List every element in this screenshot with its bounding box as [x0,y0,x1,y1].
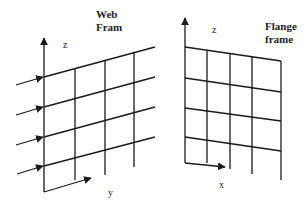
flange-grid-row-4 [185,137,281,151]
flange-grid-row-1 [185,47,281,61]
web-frame-title-line-2: Fram [96,21,122,33]
web-z-label: z [63,39,68,50]
flange-z-label: z [212,24,217,35]
web-grid-row-1 [44,47,155,77]
frames-diagram: Web Fram z y Flange frame z x [0,0,308,209]
web-load-arrow-4 [17,166,43,174]
web-load-arrow-2 [16,107,43,115]
web-frame [16,38,155,192]
web-grid-row-4 [44,137,155,166]
web-load-arrow-3 [16,137,43,145]
flange-frame-title-line-1: Flange [265,20,297,32]
web-y-axis [44,178,91,192]
web-grid-row-2 [44,77,155,107]
web-frame-title-line-1: Web [96,8,117,20]
flange-frame-title-line-2: frame [265,33,293,45]
flange-x-axis [185,163,225,167]
flange-grid-row-3 [185,108,281,121]
web-load-arrow-1 [16,77,43,85]
flange-grid-row-2 [185,78,281,92]
flange-x-label: x [219,179,224,190]
web-grid-row-3 [44,107,155,137]
web-y-label: y [108,187,113,198]
